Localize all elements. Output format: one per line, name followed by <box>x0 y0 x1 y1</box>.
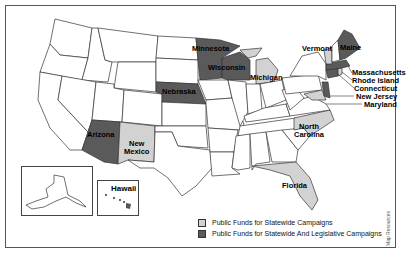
state-wyoming <box>114 62 156 92</box>
state-hawaii-island-1 <box>105 194 107 196</box>
state-colorado <box>122 90 162 126</box>
legend-item-statewide-legislative: Public Funds for Statewide And Legislati… <box>198 228 382 239</box>
label-vermont: Vermont <box>302 45 332 53</box>
state-alaska <box>26 175 86 209</box>
label-new-mexico-line2: Mexico <box>124 148 149 156</box>
alaska-inset <box>21 166 93 216</box>
label-michigan: Michigan <box>250 74 283 82</box>
state-hawaii-big-island <box>126 203 131 209</box>
map-credit: Map Resources <box>385 211 391 246</box>
legend-swatch-dark <box>198 230 206 238</box>
state-hawaii-island-3 <box>119 199 121 201</box>
state-montana <box>98 28 158 62</box>
label-arizona: Arizona <box>87 131 115 139</box>
state-new-york <box>290 52 326 80</box>
hawaii-inset: Hawaii <box>97 180 139 216</box>
state-arkansas <box>208 128 238 152</box>
label-north-carolina: North Carolina <box>294 123 324 139</box>
legend-item-statewide: Public Funds for Statewide Campaigns <box>198 217 382 228</box>
label-nebraska: Nebraska <box>162 88 196 96</box>
legend: Public Funds for Statewide Campaigns Pub… <box>198 217 382 239</box>
state-hawaii-island-4 <box>123 201 125 203</box>
label-florida: Florida <box>282 182 307 190</box>
state-south-dakota <box>156 58 198 84</box>
state-ohio <box>260 80 286 108</box>
legend-swatch-light <box>198 219 206 227</box>
label-maine: Maine <box>340 44 361 52</box>
label-new-mexico: New Mexico <box>124 140 149 156</box>
label-minnesota: Minnesota <box>192 45 229 53</box>
state-kansas <box>162 102 206 126</box>
state-hawaii-island-2 <box>113 197 115 199</box>
legend-label-statewide: Public Funds for Statewide Campaigns <box>212 219 333 226</box>
legend-label-statewide-legislative: Public Funds for Statewide And Legislati… <box>212 230 382 237</box>
label-wisconsin: Wisconsin <box>208 64 245 72</box>
label-maryland: Maryland <box>364 101 397 109</box>
label-north-carolina-line2: Carolina <box>294 131 324 139</box>
